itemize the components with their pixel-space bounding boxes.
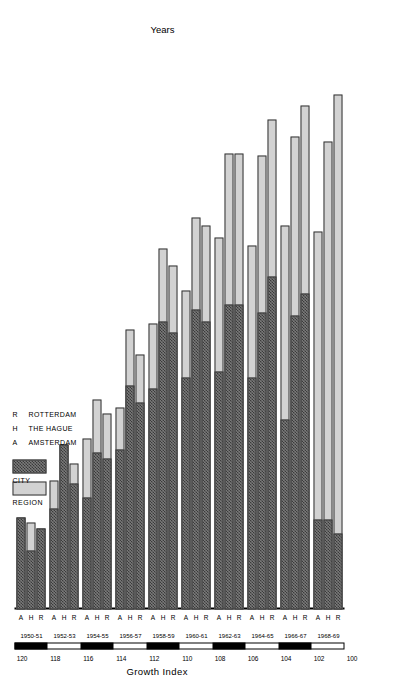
subcategory-tick-r: R bbox=[233, 612, 244, 621]
bar-segment-city[interactable] bbox=[333, 533, 342, 609]
bar-segment-city[interactable] bbox=[102, 458, 111, 609]
bar-segment-city[interactable] bbox=[115, 449, 124, 609]
subcategory-tick-a: A bbox=[180, 612, 191, 621]
bar-segment-city[interactable] bbox=[191, 309, 200, 609]
bar-row[interactable] bbox=[148, 49, 157, 609]
bar-row[interactable] bbox=[115, 49, 124, 609]
bar-segment-region[interactable] bbox=[333, 94, 342, 609]
bar-row[interactable] bbox=[224, 49, 233, 609]
subcategory-tick-a: A bbox=[81, 612, 92, 621]
subcategory-tick-h: H bbox=[124, 612, 135, 621]
value-axis: 100102104106108110112114116118120 Growth… bbox=[14, 640, 344, 649]
bar-segment-city[interactable] bbox=[267, 276, 276, 609]
bar-segment-city[interactable] bbox=[257, 312, 266, 609]
bar-row[interactable] bbox=[313, 49, 322, 609]
axis-segment bbox=[278, 642, 311, 649]
bar-segment-city[interactable] bbox=[82, 497, 91, 609]
subcategory-tick-r: R bbox=[101, 612, 112, 621]
bar-row[interactable] bbox=[125, 49, 134, 609]
bar-row[interactable] bbox=[26, 49, 35, 609]
subcategory-tick-a: A bbox=[246, 612, 257, 621]
bar-segment-city[interactable] bbox=[214, 371, 223, 609]
value-axis-title: Growth Index bbox=[126, 665, 187, 676]
key-name-the-hague: THE HAGUE bbox=[28, 424, 72, 431]
bar-row[interactable] bbox=[16, 49, 25, 609]
bar-segment-city[interactable] bbox=[135, 402, 144, 609]
category-label: 1962-63 bbox=[212, 630, 246, 640]
bar-row[interactable] bbox=[214, 49, 223, 609]
bar-segment-city[interactable] bbox=[280, 419, 289, 609]
bar-row[interactable] bbox=[36, 49, 45, 609]
bar-row[interactable] bbox=[135, 49, 144, 609]
subcategory-tick-h: H bbox=[322, 612, 333, 621]
value-tick-label: 112 bbox=[133, 653, 159, 663]
value-tick-label: 114 bbox=[100, 653, 126, 663]
bar-row[interactable] bbox=[59, 49, 68, 609]
subcategory-tick-a: A bbox=[48, 612, 59, 621]
bar-row[interactable] bbox=[267, 49, 276, 609]
bar-row[interactable] bbox=[82, 49, 91, 609]
bar-segment-city[interactable] bbox=[168, 332, 177, 609]
category-label: 1954-55 bbox=[80, 630, 114, 640]
axis-segment bbox=[14, 642, 47, 649]
value-tick-label: 108 bbox=[199, 653, 225, 663]
bar-segment-city[interactable] bbox=[16, 517, 25, 609]
axis-segment bbox=[212, 642, 245, 649]
bar-group: AHR1958-59 bbox=[146, 49, 179, 609]
bar-row[interactable] bbox=[300, 49, 309, 609]
bar-row[interactable] bbox=[92, 49, 101, 609]
subcategory-tick-a: A bbox=[213, 612, 224, 621]
value-tick-label: 106 bbox=[232, 653, 258, 663]
bar-row[interactable] bbox=[323, 49, 332, 609]
bar-segment-city[interactable] bbox=[313, 519, 322, 609]
bar-segment-city[interactable] bbox=[59, 444, 68, 609]
bar-row[interactable] bbox=[333, 49, 342, 609]
bar-row[interactable] bbox=[234, 49, 243, 609]
bar-row[interactable] bbox=[158, 49, 167, 609]
key-name-rotterdam: ROTTERDAM bbox=[28, 410, 76, 417]
legend-swatch-city bbox=[12, 459, 46, 473]
bar-segment-city[interactable] bbox=[300, 293, 309, 609]
key-letter-h: H bbox=[12, 424, 17, 431]
bar-row[interactable] bbox=[69, 49, 78, 609]
bar-segment-city[interactable] bbox=[69, 483, 78, 609]
bar-row[interactable] bbox=[191, 49, 200, 609]
subcategory-tick-r: R bbox=[332, 612, 343, 621]
bar-row[interactable] bbox=[247, 49, 256, 609]
bar-row[interactable] bbox=[168, 49, 177, 609]
subcategory-tick-a: A bbox=[15, 612, 26, 621]
bar-segment-city[interactable] bbox=[26, 550, 35, 609]
plot-area: AHR1950-51AHR1952-53AHR1954-55AHR1956-57… bbox=[14, 49, 344, 609]
bar-segment-city[interactable] bbox=[92, 452, 101, 609]
value-tick-label: 104 bbox=[265, 653, 291, 663]
bar-row[interactable] bbox=[49, 49, 58, 609]
bar-row[interactable] bbox=[201, 49, 210, 609]
bar-row[interactable] bbox=[290, 49, 299, 609]
bar-segment-city[interactable] bbox=[234, 304, 243, 609]
bar-segment-city[interactable] bbox=[323, 519, 332, 609]
bar-segment-city[interactable] bbox=[158, 321, 167, 609]
bar-row[interactable] bbox=[102, 49, 111, 609]
bar-segment-city[interactable] bbox=[181, 377, 190, 609]
bar-row[interactable] bbox=[280, 49, 289, 609]
subcategory-tick-r: R bbox=[200, 612, 211, 621]
bar-group: AHR1962-63 bbox=[212, 49, 245, 609]
bar-segment-city[interactable] bbox=[224, 304, 233, 609]
axis-segment bbox=[80, 642, 113, 649]
subcategory-tick-h: H bbox=[190, 612, 201, 621]
bar-segment-city[interactable] bbox=[36, 528, 45, 609]
bar-segment-city[interactable] bbox=[49, 508, 58, 609]
subcategory-tick-r: R bbox=[167, 612, 178, 621]
bar-row[interactable] bbox=[181, 49, 190, 609]
bar-segment-city[interactable] bbox=[247, 377, 256, 609]
bar-segment-city[interactable] bbox=[125, 385, 134, 609]
bar-segment-city[interactable] bbox=[201, 321, 210, 609]
bar-row[interactable] bbox=[257, 49, 266, 609]
bar-segment-city[interactable] bbox=[290, 315, 299, 609]
subcategory-tick-r: R bbox=[68, 612, 79, 621]
key-name-amsterdam: AMSTERDAM bbox=[28, 438, 76, 445]
bar-group: AHR1956-57 bbox=[113, 49, 146, 609]
key-letter-r: R bbox=[12, 410, 17, 417]
bar-segment-city[interactable] bbox=[148, 388, 157, 609]
